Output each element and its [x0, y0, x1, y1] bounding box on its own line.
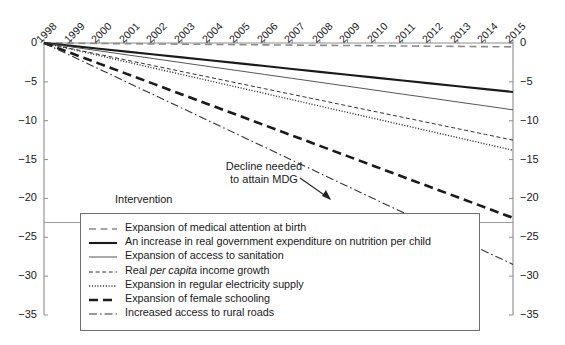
legend-item-6[interactable]: Increased access to rural roads — [81, 305, 479, 319]
y-tick-right-0: 0 — [520, 36, 526, 48]
series-line-4 — [44, 43, 513, 150]
series-line-1 — [44, 43, 513, 92]
series-line-5 — [44, 43, 513, 218]
legend-swatch-dashed-fine-icon — [88, 264, 118, 276]
y-tick-right--35: −35 — [520, 308, 539, 320]
legend-item-1[interactable]: An increase in real government expenditu… — [81, 234, 479, 248]
legend-swatch-dashed-thick-icon — [88, 292, 118, 304]
legend-label-6: Increased access to rural roads — [125, 306, 274, 318]
legend-item-3[interactable]: Real per capita income growth — [81, 263, 479, 277]
series-line-3 — [44, 43, 513, 140]
legend-swatch-solid-thin-icon — [88, 249, 118, 261]
mdg-arrow-head — [322, 190, 331, 200]
legend-item-0[interactable]: Expansion of medical attention at birth — [81, 220, 479, 234]
y-tick-right--30: −30 — [520, 269, 539, 281]
y-tick-left--10: −10 — [2, 114, 37, 126]
chart-container: 1998199920002001200220032004200520062007… — [0, 0, 565, 345]
legend-item-4[interactable]: Expansion in regular electricity supply — [81, 277, 479, 291]
y-tick-left--5: −5 — [2, 75, 37, 87]
legend-swatch-dotted-icon — [88, 278, 118, 290]
legend-swatch-solid-thick-icon — [88, 235, 118, 247]
legend-item-2[interactable]: Expansion of access to sanitation — [81, 248, 479, 262]
series-line-0 — [44, 43, 513, 47]
legend-label-2: Expansion of access to sanitation — [125, 249, 284, 261]
y-tick-right--5: −5 — [520, 75, 533, 87]
legend-label-3: Real per capita income growth — [125, 264, 269, 276]
legend-label-4: Expansion in regular electricity supply — [125, 278, 304, 290]
y-tick-left--20: −20 — [2, 191, 37, 203]
legend-label-0: Expansion of medical attention at birth — [125, 221, 306, 233]
y-tick-right--25: −25 — [520, 230, 539, 242]
y-tick-left--25: −25 — [2, 230, 37, 242]
y-tick-left--30: −30 — [2, 269, 37, 281]
mdg-annotation: Decline needed to attain MDG — [216, 160, 312, 185]
legend-title: Intervention — [115, 193, 172, 205]
y-tick-left--15: −15 — [2, 153, 37, 165]
y-tick-left-0: 0 — [2, 36, 37, 48]
y-tick-left--35: −35 — [2, 308, 37, 320]
y-tick-right--15: −15 — [520, 153, 539, 165]
legend-swatch-dashed-gray-icon — [88, 221, 118, 233]
legend-swatch-dash-dot-icon — [88, 306, 118, 318]
mdg-annotation-line2: to attain MDG — [216, 173, 312, 186]
chart-legend: Expansion of medical attention at birthA… — [80, 213, 480, 331]
y-tick-right--10: −10 — [520, 114, 539, 126]
series-line-2 — [44, 43, 513, 110]
mdg-annotation-line1: Decline needed — [216, 160, 312, 173]
legend-label-5: Expansion of female schooling — [125, 292, 270, 304]
legend-label-1: An increase in real government expenditu… — [125, 235, 431, 247]
legend-item-5[interactable]: Expansion of female schooling — [81, 291, 479, 305]
y-tick-right--20: −20 — [520, 191, 539, 203]
